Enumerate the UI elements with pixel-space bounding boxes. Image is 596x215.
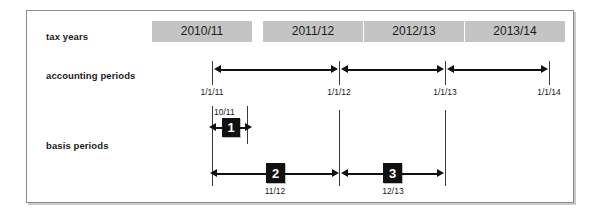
timeline-figure: tax years accounting periods basis perio… (0, 0, 596, 215)
row-label-basis-periods: basis periods (46, 140, 109, 151)
tax-year-bar-2013-14: 2013/14 (465, 21, 565, 42)
arrow-head-right-icon (331, 65, 338, 73)
arrow-head-right-icon (437, 65, 444, 73)
basis-period-badge-3: 3 (383, 163, 402, 183)
accounting-date-label-2: 1/1/12 (314, 87, 364, 97)
tick-line-basis-period-2-end (339, 110, 340, 186)
tax-year-bar-2011-12: 2011/12 (263, 21, 363, 42)
basis-period-2-caption: 11/12 (250, 186, 300, 196)
basis-period-badge-2: 2 (266, 163, 285, 183)
accounting-period-arrow-2 (341, 65, 444, 74)
arrow-head-right-icon (541, 65, 548, 73)
basis-period-badge-1: 1 (222, 118, 240, 137)
tax-year-bar-2012-13: 2012/13 (364, 21, 464, 42)
accounting-date-label-3: 1/1/13 (420, 87, 470, 97)
tick-line-1-1-11-accounting (212, 61, 213, 85)
basis-period-3-caption: 12/13 (368, 186, 418, 196)
accounting-date-label-4: 1/1/14 (524, 87, 574, 97)
accounting-period-arrow-3 (447, 65, 548, 74)
accounting-date-label-1: 1/1/11 (187, 87, 237, 97)
arrow-shaft (346, 69, 439, 71)
basis-period-1-caption: 10/11 (214, 107, 248, 117)
tick-line-1-1-13-accounting (445, 61, 446, 85)
tick-line-basis-period-3-end (445, 110, 446, 186)
arrow-shaft (219, 69, 333, 71)
arrow-head-right-icon (245, 123, 252, 131)
accounting-period-arrow-1 (214, 65, 338, 74)
arrow-head-right-icon (332, 169, 339, 177)
row-label-accounting-periods: accounting periods (46, 70, 135, 81)
tax-year-bar-2010-11: 2010/11 (152, 21, 252, 42)
arrow-shaft (452, 69, 543, 71)
arrow-head-right-icon (437, 169, 444, 177)
tick-line-1-1-14-accounting (549, 61, 550, 85)
tick-line-1-1-12-accounting (339, 61, 340, 85)
row-label-tax-years: tax years (46, 31, 88, 42)
